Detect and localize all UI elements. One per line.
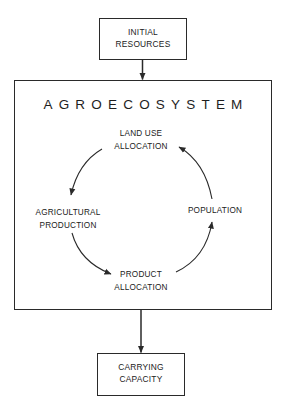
agroecosystem-title: AGROECOSYSTEM [15,97,271,112]
population-node: POPULATION [181,205,249,218]
agricultural-production-node: AGRICULTURAL PRODUCTION [29,207,107,232]
carrying-capacity-label-line1: CARRYING [98,361,184,373]
product-allocation-line2: ALLOCATION [104,282,178,295]
agricultural-production-line2: PRODUCTION [29,220,107,233]
agricultural-production-line1: AGRICULTURAL [29,207,107,220]
carrying-capacity-label-line2: CAPACITY [98,373,184,385]
population-line1: POPULATION [181,205,249,218]
carrying-capacity-box: CARRYING CAPACITY [97,353,185,396]
land-use-allocation-line2: ALLOCATION [104,141,178,154]
product-allocation-node: PRODUCT ALLOCATION [104,269,178,294]
initial-resources-label-line1: INITIAL [100,26,186,38]
initial-resources-label-line2: RESOURCES [100,38,186,50]
land-use-allocation-line1: LAND USE [104,128,178,141]
land-use-allocation-node: LAND USE ALLOCATION [104,128,178,153]
product-allocation-line1: PRODUCT [104,269,178,282]
initial-resources-box: INITIAL RESOURCES [99,18,187,60]
